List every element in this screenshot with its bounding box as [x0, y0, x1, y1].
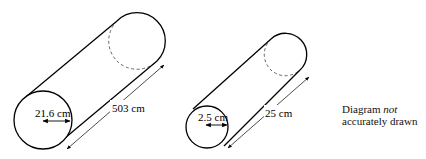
large-bottom-edge: [65, 61, 157, 138]
small-back-hidden-arc: [264, 39, 300, 76]
note-emphasis: not: [383, 103, 397, 115]
small-top-edge: [193, 39, 271, 109]
small-radius-label: 2.5 cm: [198, 111, 228, 123]
large-top-edge: [27, 21, 117, 96]
large-back-hidden-arc: [109, 21, 157, 69]
large-front-circle: [14, 91, 72, 149]
small-length-label: 25 cm: [265, 107, 293, 119]
cylinders-diagram: 21.6 cm 503 cm 2.5 cm 25 cm: [0, 0, 426, 159]
small-cylinder: 2.5 cm 25 cm: [186, 33, 309, 148]
note-line-1: Diagram not: [342, 103, 417, 115]
large-cylinder: 21.6 cm 503 cm: [14, 13, 165, 149]
large-radius-label: 21.6 cm: [35, 107, 71, 119]
large-length-label: 503 cm: [112, 102, 145, 114]
diagram-note: Diagram not accurately drawn: [342, 103, 417, 127]
large-back-arc: [117, 13, 165, 61]
small-back-arc: [271, 33, 307, 70]
note-line-2: accurately drawn: [342, 115, 417, 127]
